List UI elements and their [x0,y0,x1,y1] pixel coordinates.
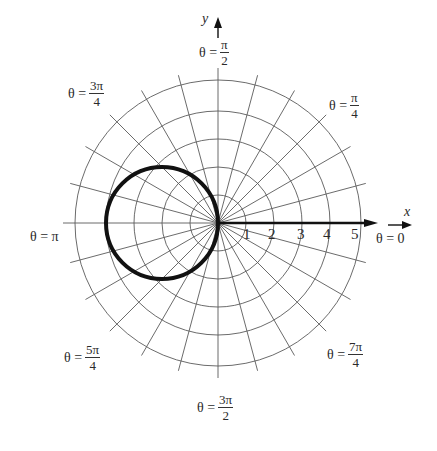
polar-graph [0,0,437,451]
grid-radial-line [218,223,295,356]
label-theta-pi-2: θ = π2 [199,38,229,67]
label-theta-7pi-4: θ = 7π4 [327,340,363,369]
grid-radial-line [218,90,295,223]
grid-radial-line [70,183,218,223]
tick-5: 5 [351,226,359,243]
grid-radial-line [218,147,351,224]
y-axis-name: y [202,11,208,27]
y-axis-arrowhead [214,17,222,28]
grid-radial-line [218,223,366,263]
label-theta-5pi-4: θ = 5π4 [64,343,100,372]
label-theta-pi-4: θ = π4 [329,91,359,120]
grid-radial-line [142,223,219,356]
label-theta-0: θ = 0 [376,232,405,246]
grid-radial-line [218,183,366,223]
grid-radial-line [70,223,218,263]
label-theta-3pi-2: θ = 3π2 [197,393,233,422]
grid-radial-line [142,90,219,223]
label-theta-pi: θ = π [30,230,59,244]
tick-1: 1 [243,226,251,243]
label-theta-3pi-4: θ = 3π4 [68,79,104,108]
polar-axis-arrowhead [364,219,378,227]
grid-radial-line [218,75,258,223]
grid-radial-line [218,115,326,223]
x-axis-name: x [404,204,410,220]
x-axis-arrowhead [402,221,412,229]
tick-3: 3 [297,226,305,243]
tick-2: 2 [268,226,276,243]
grid-radial-line [218,223,258,371]
tick-4: 4 [323,226,331,243]
